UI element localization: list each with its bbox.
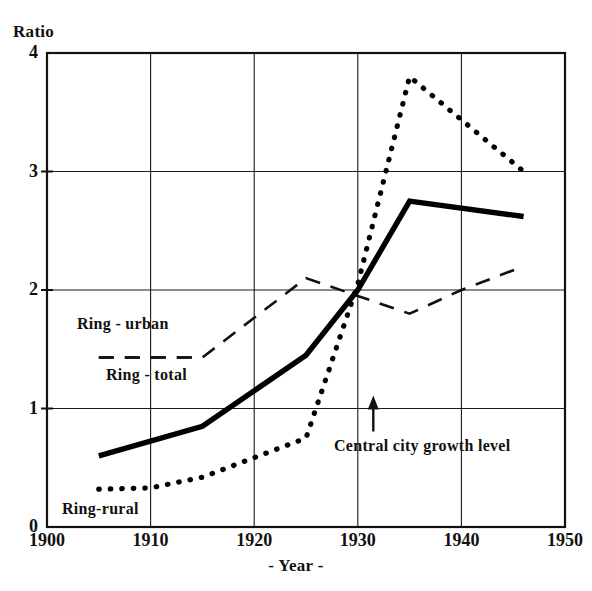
y-tick-label-1: 1 (8, 398, 38, 419)
up-arrow-icon (368, 396, 379, 432)
series-label-ring-urban: Ring - urban (77, 315, 169, 333)
annotation-central-city-growth-level: Central city growth level (334, 437, 511, 455)
x-tick-label-1910: 1910 (116, 530, 186, 551)
y-tick-label-3: 3 (8, 161, 38, 182)
x-tick-label-1950: 1950 (530, 530, 592, 551)
y-axis-title: Ratio (13, 22, 54, 42)
y-tick-label-2: 2 (8, 279, 38, 300)
x-tick-label-1900: 1900 (12, 530, 82, 551)
series-label-ring-rural: Ring-rural (62, 500, 139, 518)
plot-gridlines (47, 53, 565, 527)
x-tick-label-1920: 1920 (219, 530, 289, 551)
x-axis-title: - Year - (0, 556, 592, 576)
series-line-ring-urban (99, 266, 524, 357)
series-label-ring-total: Ring - total (106, 366, 187, 384)
x-tick-label-1930: 1930 (323, 530, 393, 551)
chart-figure: Ratio 4 3 2 1 0 1900 1910 1920 1930 1940… (0, 0, 592, 591)
series-line-ring-rural (99, 77, 524, 489)
x-tick-label-1940: 1940 (426, 530, 496, 551)
y-tick-label-4: 4 (8, 42, 38, 63)
